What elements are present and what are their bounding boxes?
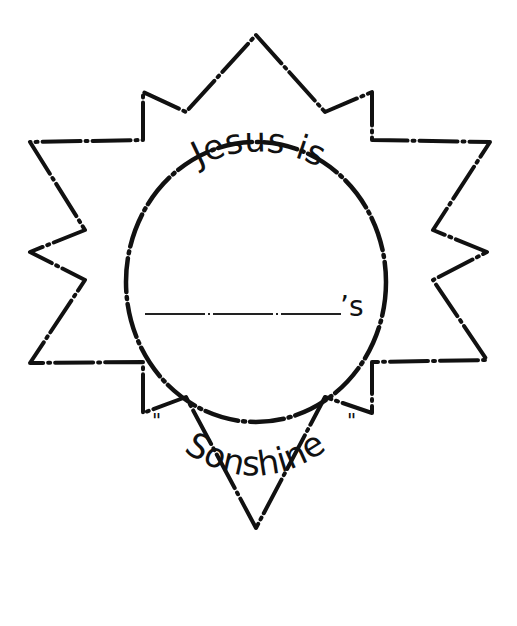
bottom-text: Sonshine (179, 423, 332, 484)
top-text: Jesus is (183, 119, 332, 174)
close-quote: " (347, 408, 356, 432)
top-arc-text: Jesus is (183, 119, 332, 174)
center-circle (126, 142, 386, 422)
open-quote: " (152, 408, 161, 432)
bottom-arc-text: Sonshine (179, 423, 332, 484)
sun-worksheet: Jesus is ’s " " Sonshine (0, 0, 517, 626)
possessive-suffix: ’s (340, 290, 364, 323)
